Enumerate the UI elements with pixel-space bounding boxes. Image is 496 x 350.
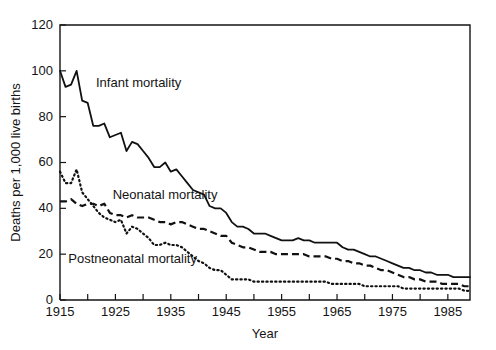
y-tick-label: 20 [39,246,53,261]
y-axis-title: Deaths per 1,000 live births [8,83,23,242]
x-tick-label: 1915 [46,304,75,319]
series-line-infant-mortality [60,71,470,277]
x-tick-label: 1955 [267,304,296,319]
x-tick-label: 1985 [433,304,462,319]
x-tick-label: 1945 [212,304,241,319]
y-tick-label: 60 [39,154,53,169]
y-tick-label: 40 [39,200,53,215]
series-label-neonatal-mortality: Neonatal mortality [113,187,218,202]
x-tick-label: 1965 [323,304,352,319]
series-inline-labels: Infant mortalityNeonatal mortalityPostne… [68,75,218,266]
y-axis-tickmarks [60,25,66,300]
y-tick-label: 120 [31,17,53,32]
series-label-postneonatal-mortality: Postneonatal mortality [68,251,197,266]
y-tick-label: 80 [39,109,53,124]
y-axis-tick-labels: 020406080100120 [31,17,53,307]
x-tick-label: 1925 [101,304,130,319]
series-label-infant-mortality: Infant mortality [96,75,182,90]
x-tick-label: 1975 [378,304,407,319]
x-tick-label: 1935 [156,304,185,319]
chart-figure: 020406080100120 191519251935194519551965… [0,0,496,350]
x-axis-title: Year [252,326,279,341]
x-axis-tickmarks [60,294,448,300]
x-axis-tick-labels: 19151925193519451955196519751985 [46,304,463,319]
y-tick-label: 100 [31,63,53,78]
infant-mortality-chart: 020406080100120 191519251935194519551965… [0,0,496,350]
series-line-neonatal-mortality [60,199,470,286]
